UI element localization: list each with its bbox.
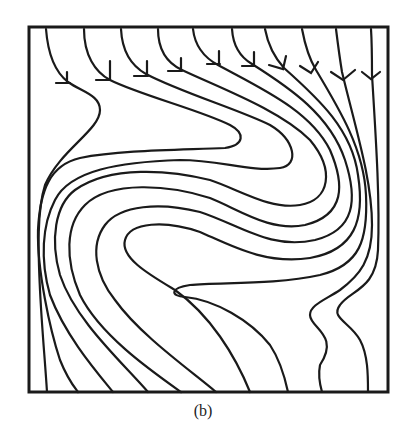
arrow-icon: [168, 58, 182, 71]
streamline-diagram: [0, 0, 406, 448]
streamline-8: [174, 29, 366, 392]
arrow-icon: [300, 62, 318, 73]
streamline-5: [69, 29, 339, 392]
figure-caption: (b): [0, 402, 406, 420]
arrowheads: [56, 51, 380, 83]
streamline-6: [96, 29, 352, 392]
streamline-9: [310, 29, 372, 392]
arrow-icon: [134, 61, 148, 76]
